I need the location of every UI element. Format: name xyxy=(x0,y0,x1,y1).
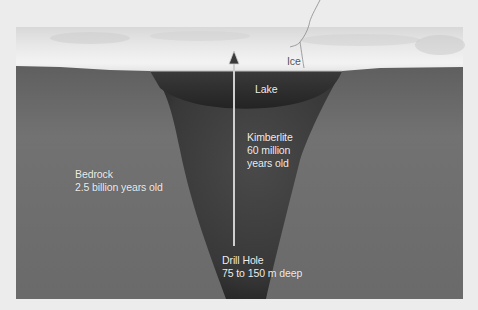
ice-label-text: Ice xyxy=(287,55,301,68)
kimberlite-label-line1: Kimberlite xyxy=(247,131,293,144)
drill-hole-label-line1: Drill Hole xyxy=(222,254,302,267)
kimberlite-label-line3: years old xyxy=(247,157,293,170)
drill-hole-label: Drill Hole 75 to 150 m deep xyxy=(222,254,302,280)
drill-hole-label-line2: 75 to 150 m deep xyxy=(222,267,302,280)
lake-label: Lake xyxy=(255,83,277,96)
kimberlite-label-line2: 60 million xyxy=(247,144,293,157)
bedrock-label-line1: Bedrock xyxy=(75,168,163,181)
kimberlite-label: Kimberlite 60 million years old xyxy=(247,131,293,170)
lake-label-text: Lake xyxy=(255,83,277,96)
ice-label: Ice xyxy=(287,55,301,68)
bedrock-label-line2: 2.5 billion years old xyxy=(75,181,163,194)
bedrock-label: Bedrock 2.5 billion years old xyxy=(75,168,163,194)
